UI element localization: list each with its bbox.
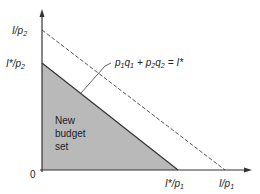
y-axis-arrow-icon bbox=[40, 9, 45, 17]
budget-equation: p1q1+p2q2=I* bbox=[114, 57, 184, 69]
x-label-Istar-over-p1: I*/p1 bbox=[165, 178, 184, 190]
region-label-line-3: set bbox=[55, 141, 69, 152]
origin-label: 0 bbox=[30, 169, 36, 180]
region-label-line-2: budget bbox=[55, 128, 86, 139]
equation-leader-line bbox=[81, 63, 111, 93]
x-axis-arrow-icon bbox=[244, 168, 252, 173]
x-label-I-over-p1: I/p1 bbox=[219, 178, 234, 190]
y-label-Istar-over-p2: I*/p2 bbox=[6, 58, 25, 70]
y-label-I-over-p2: I/p2 bbox=[12, 25, 27, 37]
region-label-line-1: New bbox=[55, 115, 76, 126]
budget-diagram: I/p2 I*/p2 0 I*/p1 I/p1 p1q1+p2q2=I* New… bbox=[0, 0, 260, 194]
